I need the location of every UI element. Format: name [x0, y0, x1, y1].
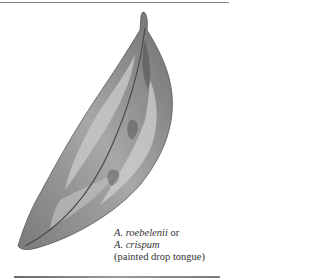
species-name-1: A. roebelenii [114, 227, 168, 238]
species-name-2: A. crispum [114, 239, 160, 250]
caption-line-2: A. crispum [114, 239, 205, 251]
common-name: (painted drop tongue) [114, 251, 205, 263]
caption-line-1: A. roebelenii or [114, 227, 205, 239]
caption: A. roebelenii or A. crispum (painted dro… [114, 227, 205, 263]
caption-connector: or [168, 227, 179, 238]
